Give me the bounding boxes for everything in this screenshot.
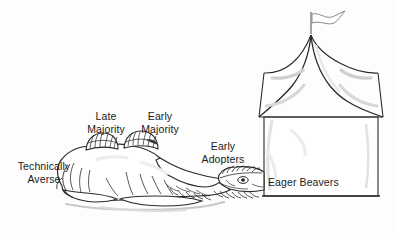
camel-eye-pupil bbox=[241, 178, 245, 182]
label-early-majority: Early Majority bbox=[134, 110, 186, 135]
label-line-2: Adopters bbox=[192, 153, 254, 166]
label-line-1: Late bbox=[82, 110, 130, 123]
label-line-1: Eager Beavers bbox=[268, 176, 350, 189]
label-eager-beavers: Eager Beavers bbox=[268, 176, 350, 189]
label-line-1: Early bbox=[192, 140, 254, 153]
label-technically-averse: Technically Averse bbox=[8, 160, 80, 185]
label-line-2: Majority bbox=[82, 123, 130, 136]
line-drawing bbox=[0, 0, 395, 233]
label-early-adopters: Early Adopters bbox=[192, 140, 254, 165]
label-line-2: Averse bbox=[8, 173, 80, 186]
label-line-2: Majority bbox=[134, 123, 186, 136]
label-line-1: Early bbox=[134, 110, 186, 123]
label-line-1: Technically bbox=[8, 160, 80, 173]
label-late-majority: Late Majority bbox=[82, 110, 130, 135]
